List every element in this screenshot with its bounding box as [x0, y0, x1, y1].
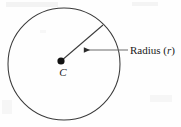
circle-outline	[8, 8, 120, 120]
radius-segment	[61, 25, 103, 61]
radius-label-text: Radius (	[130, 44, 167, 56]
radius-annotation-label: Radius (r)	[130, 44, 175, 57]
circle-radius-figure: C Radius (r)	[0, 0, 181, 127]
figure-canvas	[0, 0, 181, 127]
center-point-label: C	[55, 66, 71, 78]
radius-label-close-paren: )	[171, 44, 175, 56]
center-point-dot	[57, 57, 64, 64]
